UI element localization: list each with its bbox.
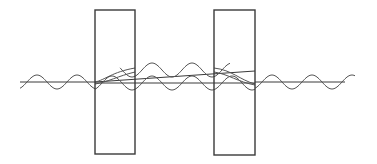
wave-plates-diagram bbox=[0, 0, 377, 164]
diagram-canvas: Light wave passing through two parallel … bbox=[0, 0, 377, 164]
refraction-curve bbox=[214, 68, 255, 84]
waves bbox=[20, 63, 355, 90]
axis-lines bbox=[20, 71, 345, 83]
